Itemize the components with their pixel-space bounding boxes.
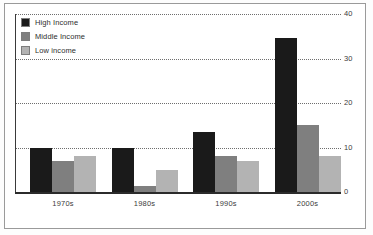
bar (30, 148, 52, 193)
x-axis-baseline (15, 192, 341, 194)
y-tick-label: 0 (344, 188, 348, 196)
x-tick-label: 1980s (120, 199, 170, 208)
bar (193, 132, 215, 192)
y-tick-label: 40 (344, 10, 353, 18)
bar (112, 148, 134, 193)
legend-swatch-low-income (21, 46, 30, 55)
bar (156, 170, 178, 192)
legend-label-low-income: Low income (35, 46, 76, 55)
x-tick-label: 2000s (283, 199, 333, 208)
bar (297, 125, 319, 192)
y-tick-label: 10 (344, 144, 353, 152)
legend-swatch-high-income (21, 18, 30, 27)
bar (52, 161, 74, 192)
bar (215, 156, 237, 192)
bar (237, 161, 259, 192)
x-tick-label: 1990s (201, 199, 251, 208)
legend-item: Low income (21, 45, 85, 55)
legend-swatch-middle-income (21, 32, 30, 41)
legend-label-middle-income: Middle Income (35, 32, 85, 41)
bar (134, 186, 156, 192)
legend: High Income Middle Income Low income (21, 17, 85, 55)
bar (74, 156, 96, 192)
x-tick-label: 1970s (38, 199, 88, 208)
chart-screenshot: 010203040 1970s1980s1990s2000s High Inco… (0, 0, 373, 235)
bar (319, 156, 341, 192)
y-tick-label: 30 (344, 55, 353, 63)
legend-item: Middle Income (21, 31, 85, 41)
bar (275, 38, 297, 192)
legend-item: High Income (21, 17, 85, 27)
legend-label-high-income: High Income (35, 18, 78, 27)
y-tick-label: 20 (344, 99, 353, 107)
